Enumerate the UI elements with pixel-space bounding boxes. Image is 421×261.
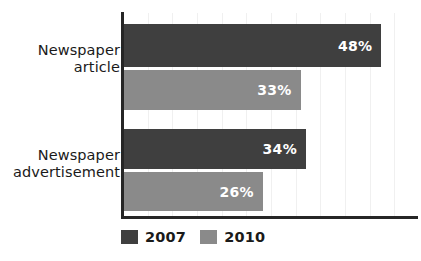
bar-chart: Newspaper article Newspaper advertisemen… [0,0,421,261]
plot-area: 48%33%34%26% [123,13,419,218]
bar-value-label: 48% [338,38,372,54]
gridline [394,13,395,218]
bar-value-label: 33% [257,82,291,98]
legend-item-2007[interactable]: 2007 [121,229,186,245]
bar-2010-newspaper-article: 33% [123,70,301,110]
bar-value-label: 26% [220,184,254,200]
legend-item-2010[interactable]: 2010 [200,229,265,245]
legend-label: 2010 [224,229,265,245]
legend-swatch-icon [200,230,217,244]
category-label-newspaper-article: Newspaper article [0,42,120,75]
bar-2007-newspaper-advertisement: 34% [123,129,306,169]
x-axis-line [121,216,418,219]
bar-2007-newspaper-article: 48% [123,24,381,67]
category-label-newspaper-advertisement: Newspaper advertisement [0,147,120,180]
legend-label: 2007 [145,229,186,245]
bar-value-label: 34% [263,141,297,157]
y-axis-line [121,12,124,219]
legend-swatch-icon [121,230,138,244]
bar-2010-newspaper-advertisement: 26% [123,172,263,211]
chart-legend: 20072010 [121,229,265,245]
